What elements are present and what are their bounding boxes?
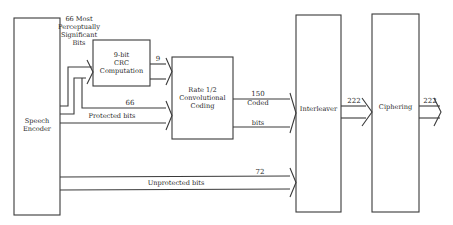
coded-label-1: Coded (247, 99, 269, 107)
cipher-output-count: 222 (423, 97, 436, 105)
mps-label-2: Perceptually (58, 23, 100, 31)
speech-encoder-label-1: Speech (25, 117, 50, 125)
conv-label-1: Rate 1/2 (188, 86, 216, 94)
gsm-speech-channel-coding-diagram: Speech Encoder 9-bit CRC Computation Rat… (0, 0, 453, 225)
crc-block: 9-bit CRC Computation (93, 40, 150, 86)
crc-label-2: CRC (114, 59, 129, 67)
coded-label-2: bits (252, 119, 265, 127)
mps-label-4: Bits (73, 39, 87, 47)
ciphering-label: Ciphering (379, 103, 413, 111)
unprotected-count: 72 (256, 168, 265, 176)
protected-label: Protected bits (88, 112, 136, 120)
ciphering-block: Ciphering (372, 14, 419, 212)
crc-output-arrow: 9 (150, 55, 172, 85)
conv-label-3: Coding (191, 102, 216, 110)
speech-encoder-label-2: Encoder (23, 125, 52, 133)
crc-output-count: 9 (156, 55, 160, 63)
interleaver-block: Interleaver (296, 15, 341, 212)
mps-label-1: 66 Most (65, 15, 93, 23)
coded-bits-arrow: 150 Coded bits (233, 90, 296, 133)
interleaver-output-count: 222 (347, 97, 360, 105)
unprotected-label: Unprotected bits (148, 179, 205, 187)
crc-label-3: Computation (100, 67, 144, 75)
cipher-output-arrow: 222 (419, 97, 441, 126)
unprotected-bits-arrow: 72 Unprotected bits (60, 168, 296, 197)
crc-label-1: 9-bit (114, 51, 130, 59)
interleaver-output-arrow: 222 (341, 97, 372, 126)
speech-encoder-block: Speech Encoder (14, 18, 60, 215)
mps-label-3: Significant (61, 31, 97, 39)
protected-count: 66 (126, 99, 135, 107)
interleaver-label: Interleaver (300, 105, 338, 113)
convolutional-coding-block: Rate 1/2 Convolutional Coding (172, 57, 233, 139)
conv-label-2: Convolutional (179, 94, 225, 102)
coded-count: 150 (251, 90, 264, 98)
